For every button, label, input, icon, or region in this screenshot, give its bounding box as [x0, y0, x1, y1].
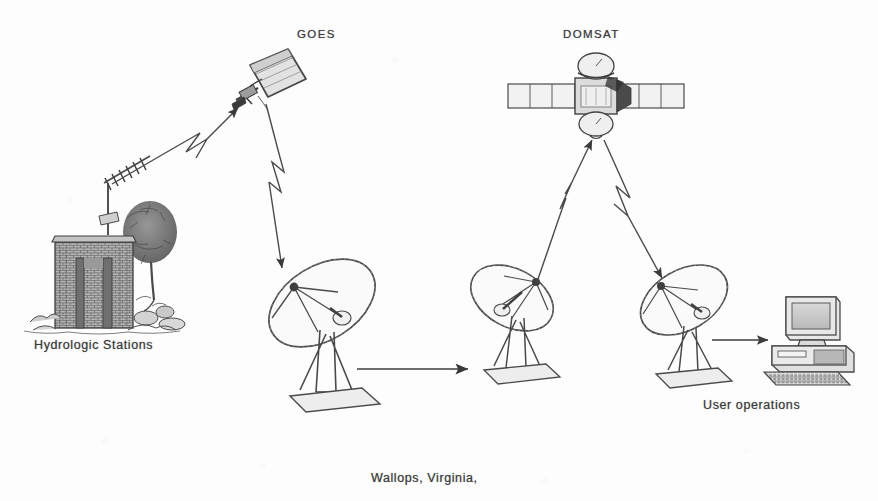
- label-wallops-center: Wallops, Virginia, Command and Data Acqu…: [371, 428, 515, 501]
- diagram-canvas: GOES DOMSAT Hydrologic Stations User ope…: [0, 0, 878, 501]
- satellite-dish-downlink-icon: [628, 251, 739, 388]
- link-uplink-to-domsat: [537, 140, 592, 282]
- goes-satellite-icon: [232, 49, 306, 110]
- link-goes-to-wallops: [266, 104, 284, 268]
- label-domsat: DOMSAT: [563, 28, 620, 40]
- domsat-satellite-icon: [508, 53, 684, 139]
- gaging-station-icon: [24, 156, 185, 334]
- satellite-dish-wallops-icon: [253, 241, 391, 412]
- label-user-operations: User operations: [703, 398, 800, 412]
- solar-panel-left-icon: [508, 84, 575, 108]
- label-goes: GOES: [297, 28, 336, 40]
- link-domsat-to-downlink: [604, 140, 662, 278]
- link-station-to-goes: [112, 108, 238, 184]
- station-shelter-icon: [52, 236, 136, 328]
- label-hydrologic-stations: Hydrologic Stations: [34, 338, 153, 352]
- diagram-illustration: [0, 0, 878, 501]
- computer-icon: [764, 297, 854, 385]
- satellite-dish-uplink-icon: [460, 252, 565, 384]
- wallops-line-1: Wallops, Virginia,: [371, 468, 515, 488]
